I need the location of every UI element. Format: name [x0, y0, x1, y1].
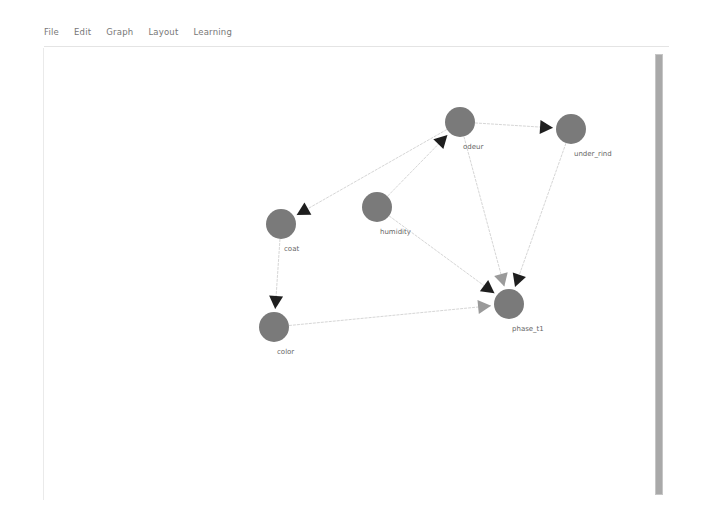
arrowhead-icon [513, 272, 526, 287]
node-label: humidity [380, 228, 411, 236]
node-circle[interactable] [494, 289, 524, 319]
edge-color-phase_t1[interactable] [289, 306, 491, 326]
node-circle[interactable] [445, 107, 475, 137]
graph-edges [269, 120, 566, 325]
node-circle[interactable] [266, 209, 296, 239]
node-label: under_rind [574, 150, 612, 158]
node-label: color [277, 348, 294, 356]
edge-odeur-phase_t1[interactable] [464, 136, 504, 286]
arrowhead-icon [477, 300, 491, 314]
graph-nodes: odeurunder_rindcoathumiditycolorphase_t1 [259, 107, 612, 356]
node-label: coat [284, 245, 299, 253]
node-odeur[interactable]: odeur [445, 107, 483, 151]
arrowhead-icon [297, 203, 312, 216]
node-color[interactable]: color [259, 312, 294, 356]
node-coat[interactable]: coat [266, 209, 299, 253]
node-label: phase_t1 [512, 325, 544, 333]
node-circle[interactable] [362, 192, 392, 222]
node-under_rind[interactable]: under_rind [556, 114, 612, 158]
arrowhead-icon [494, 272, 508, 286]
arrowhead-icon [480, 280, 495, 293]
node-circle[interactable] [259, 312, 289, 342]
edge-under_rind-phase_t1[interactable] [515, 143, 566, 287]
node-phase_t1[interactable]: phase_t1 [494, 289, 544, 333]
arrowhead-icon [269, 296, 283, 309]
network-graph[interactable]: odeurunder_rindcoathumiditycolorphase_t1 [0, 0, 725, 522]
arrowhead-icon [540, 120, 553, 134]
node-humidity[interactable]: humidity [362, 192, 411, 236]
node-label: odeur [463, 143, 483, 151]
node-circle[interactable] [556, 114, 586, 144]
